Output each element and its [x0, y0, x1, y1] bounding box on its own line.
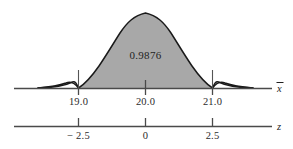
x-axis-label-21: 21.0: [203, 96, 222, 107]
probability-value-label: 0.9876: [129, 49, 161, 61]
z-axis-label: z: [276, 121, 281, 132]
z-axis-label-25: 2.5: [206, 130, 220, 141]
x-bar-axis-label: x: [276, 83, 282, 94]
x-axis-label-19: 19.0: [69, 96, 88, 107]
normal-curve-chart: 19.0 20.0 21.0 x − 2.5 0 2.5 z 0.9876: [0, 0, 293, 149]
x-axis-label-20: 20.0: [136, 96, 155, 107]
z-axis-label-0: 0: [143, 130, 148, 141]
z-axis-label-neg25: − 2.5: [67, 130, 90, 141]
normal-distribution-figure: 19.0 20.0 21.0 x − 2.5 0 2.5 z 0.9876: [0, 0, 293, 149]
